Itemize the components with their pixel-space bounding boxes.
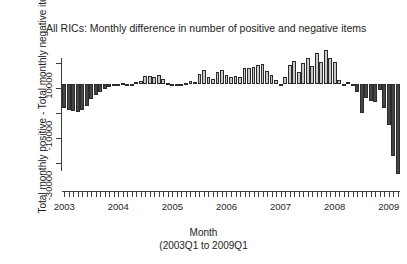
x-axis-tick bbox=[186, 191, 187, 197]
x-axis-tick bbox=[222, 191, 223, 197]
x-axis-tick bbox=[263, 191, 264, 197]
x-axis-tick bbox=[159, 191, 160, 197]
bar bbox=[116, 84, 120, 86]
x-axis-tick bbox=[226, 191, 227, 197]
x-axis-tick bbox=[393, 191, 394, 197]
x-axis-tick bbox=[294, 191, 295, 197]
bar bbox=[161, 79, 165, 84]
x-axis-label-line1: Month bbox=[190, 227, 218, 238]
x-axis-tick bbox=[64, 191, 65, 197]
bar bbox=[76, 84, 80, 112]
bar bbox=[288, 65, 292, 84]
bar bbox=[396, 84, 400, 173]
bar bbox=[283, 77, 287, 84]
bar bbox=[301, 63, 305, 84]
bar bbox=[247, 68, 251, 84]
x-axis-tick bbox=[272, 191, 273, 197]
bar bbox=[274, 80, 278, 84]
bar bbox=[342, 84, 346, 86]
y-axis-tick-label: -30000 bbox=[43, 162, 54, 210]
bar bbox=[148, 76, 152, 84]
x-axis-tick bbox=[213, 191, 214, 197]
bar bbox=[243, 68, 247, 84]
bar bbox=[170, 84, 174, 86]
x-axis-tick bbox=[231, 191, 232, 197]
x-axis-tick bbox=[371, 191, 372, 197]
x-axis-tick bbox=[87, 191, 88, 197]
bar bbox=[71, 84, 75, 111]
bar bbox=[202, 70, 206, 84]
bar bbox=[207, 77, 211, 84]
x-axis-tick bbox=[312, 191, 313, 197]
x-axis-tick bbox=[375, 191, 376, 197]
bar bbox=[292, 61, 296, 85]
x-axis-tick bbox=[163, 191, 164, 197]
x-axis-tick bbox=[105, 191, 106, 197]
bar bbox=[62, 84, 66, 108]
bar bbox=[252, 67, 256, 85]
x-axis-tick bbox=[389, 191, 390, 197]
bar bbox=[125, 84, 129, 86]
bar bbox=[220, 70, 224, 85]
x-axis-tick-label: 2009 bbox=[378, 201, 399, 212]
bar bbox=[85, 84, 89, 106]
bar bbox=[256, 65, 260, 84]
x-axis-tick bbox=[348, 191, 349, 197]
plot-area bbox=[62, 44, 400, 188]
x-axis-tick bbox=[258, 191, 259, 197]
x-axis-tick bbox=[118, 191, 119, 197]
bar bbox=[234, 76, 238, 85]
x-axis-tick bbox=[132, 191, 133, 197]
x-axis-tick bbox=[366, 191, 367, 197]
x-axis-tick bbox=[172, 191, 173, 197]
x-axis-tick-label: 2004 bbox=[108, 201, 129, 212]
x-axis-tick bbox=[384, 191, 385, 197]
bar bbox=[130, 84, 134, 86]
bar bbox=[382, 84, 386, 108]
x-axis-tick-label: 2003 bbox=[54, 201, 75, 212]
bar bbox=[229, 77, 233, 85]
x-axis-tick bbox=[73, 191, 74, 197]
bar bbox=[355, 84, 359, 92]
x-axis-tick-label: 2008 bbox=[324, 201, 345, 212]
x-axis-tick bbox=[123, 191, 124, 197]
x-axis-tick bbox=[82, 191, 83, 197]
bar bbox=[373, 84, 377, 102]
bar bbox=[112, 84, 116, 86]
bar bbox=[261, 64, 265, 85]
x-axis-tick bbox=[308, 191, 309, 197]
x-axis-tick bbox=[127, 191, 128, 197]
bar bbox=[166, 83, 170, 85]
bar bbox=[225, 75, 229, 85]
x-axis-tick bbox=[114, 191, 115, 197]
bar bbox=[306, 58, 310, 85]
x-axis-tick bbox=[141, 191, 142, 197]
bar bbox=[351, 84, 355, 86]
bar bbox=[139, 81, 143, 84]
bar bbox=[98, 84, 102, 91]
bar bbox=[378, 84, 382, 90]
bar bbox=[337, 80, 341, 84]
bar bbox=[94, 84, 98, 94]
x-axis-tick bbox=[236, 191, 237, 197]
x-axis-tick bbox=[199, 191, 200, 197]
bar bbox=[179, 84, 183, 86]
bar bbox=[297, 72, 301, 85]
x-axis-tick bbox=[303, 191, 304, 197]
bar bbox=[175, 84, 179, 86]
x-axis-tick bbox=[267, 191, 268, 197]
x-axis-tick bbox=[281, 191, 282, 197]
bar bbox=[387, 84, 391, 124]
x-axis-tick bbox=[249, 191, 250, 197]
bar bbox=[143, 76, 147, 84]
x-axis-tick bbox=[204, 191, 205, 197]
bar bbox=[216, 72, 220, 85]
x-axis-tick bbox=[154, 191, 155, 197]
y-axis-tick-label: -10000 bbox=[43, 112, 54, 160]
bar bbox=[270, 75, 274, 84]
x-axis-tick bbox=[217, 191, 218, 197]
x-axis-tick bbox=[78, 191, 79, 197]
x-axis-tick bbox=[91, 191, 92, 197]
bar bbox=[211, 79, 215, 84]
bar bbox=[364, 84, 368, 97]
